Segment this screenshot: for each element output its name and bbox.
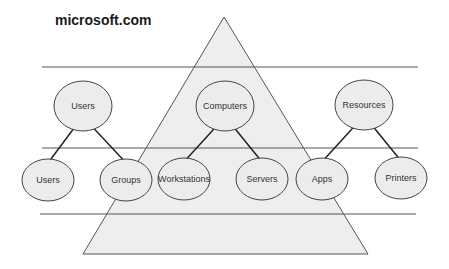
link-users-groups	[94, 129, 123, 161]
node-label: Computers	[203, 101, 248, 111]
node-computers: Computers	[196, 81, 254, 131]
node-label: Apps	[312, 174, 333, 184]
node-groups: Groups	[100, 159, 152, 201]
node-workstations: Workstations	[158, 158, 210, 200]
node-users: Users	[22, 159, 74, 201]
node-apps: Apps	[296, 158, 348, 200]
link-users-users	[50, 129, 73, 161]
node-label: Users	[71, 101, 95, 111]
node-label: Printers	[385, 173, 417, 183]
node-label: Resources	[342, 100, 386, 110]
node-users: Users	[54, 81, 112, 131]
domain-diagram: UsersUsersGroupsComputersWorkstationsSer…	[0, 0, 449, 269]
node-label: Groups	[111, 175, 141, 185]
node-servers: Servers	[236, 158, 288, 200]
node-resources: Resources	[335, 80, 393, 130]
node-label: Users	[36, 175, 60, 185]
node-printers: Printers	[375, 157, 427, 199]
node-label: Workstations	[158, 174, 210, 184]
link-resources-printers	[374, 128, 399, 159]
triangle-ou-shape	[83, 17, 368, 254]
node-label: Servers	[246, 174, 278, 184]
link-resources-apps	[325, 128, 354, 160]
